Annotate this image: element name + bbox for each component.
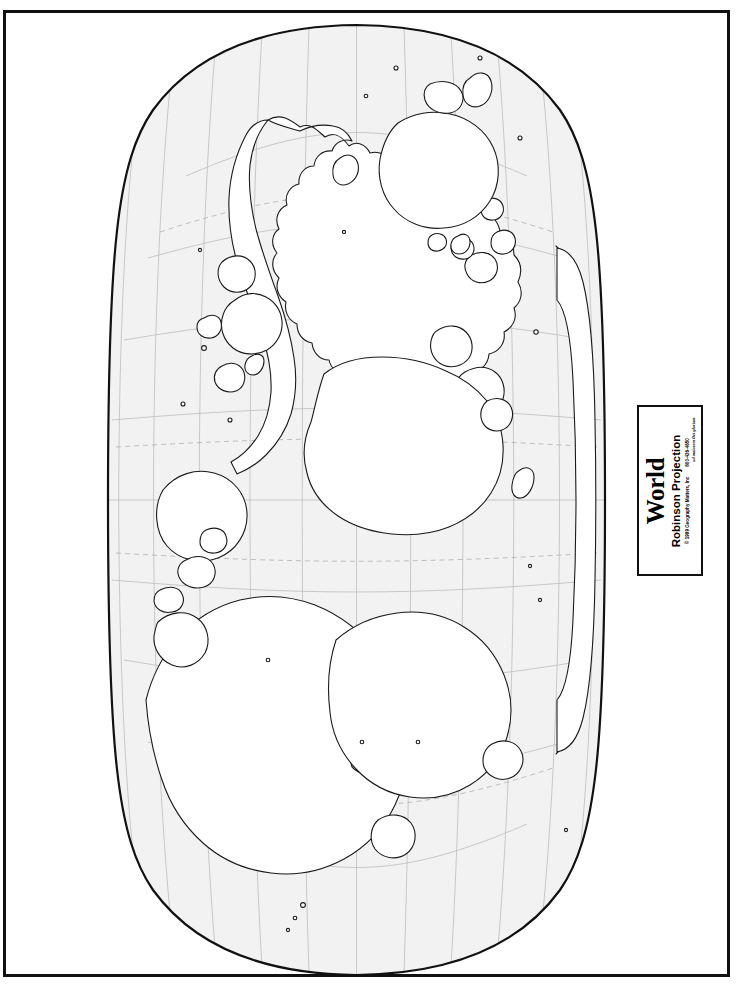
land-scandinavia xyxy=(218,256,255,292)
land-africa-horn xyxy=(481,399,513,431)
map-title: World xyxy=(643,457,669,524)
land-australia xyxy=(379,112,498,228)
land-iberia xyxy=(214,363,244,392)
map-title-rotated-content: World Robinson Projection © 1999 Geograp… xyxy=(639,407,701,574)
land-central-america xyxy=(371,815,415,858)
land-alaska xyxy=(154,613,208,667)
motto-text: ad maiorem Dei gloriam xyxy=(691,407,697,574)
map-title-box: World Robinson Projection © 1999 Geograp… xyxy=(637,405,703,576)
map-svg xyxy=(0,0,744,987)
map-body xyxy=(100,18,615,983)
map-subtitle-projection: Robinson Projection xyxy=(670,434,683,546)
land-arabia xyxy=(431,326,473,367)
page-canvas: World Robinson Projection © 1999 Geograp… xyxy=(0,0,744,987)
world-map xyxy=(0,0,744,987)
land-south-america-tip xyxy=(483,741,523,779)
land-europe xyxy=(221,294,282,354)
